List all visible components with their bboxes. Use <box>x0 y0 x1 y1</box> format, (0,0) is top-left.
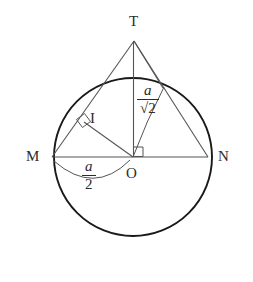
measure-a-over-2-numerator: a <box>82 159 96 175</box>
segment-tm-line <box>52 41 134 157</box>
measure-a-over-sqrt2-numerator: a <box>137 83 159 99</box>
vertex-label-n: N <box>218 149 229 164</box>
geometry-canvas <box>0 0 253 282</box>
measure-a-over-sqrt2-denominator: √2 <box>137 100 159 116</box>
segment-t-tangency-line <box>134 41 163 88</box>
vertex-label-m: M <box>26 149 39 164</box>
measure-label-a-over-sqrt2: a √2 <box>137 83 159 116</box>
vertex-label-o: O <box>126 166 137 181</box>
geometry-figure: T M N O I a 2 a √2 <box>0 0 253 282</box>
measure-a-over-2-denominator: 2 <box>82 176 96 192</box>
segment-io-line <box>84 122 133 157</box>
measure-label-a-over-2: a 2 <box>82 159 96 192</box>
vertex-label-t: T <box>129 14 138 29</box>
vertex-label-i: I <box>90 111 95 126</box>
